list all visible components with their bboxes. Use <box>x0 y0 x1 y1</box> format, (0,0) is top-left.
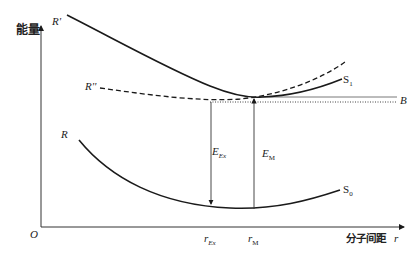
x-axis-symbol: r <box>394 232 399 244</box>
x-axis-label: 分子间距 <box>346 232 387 244</box>
curve-r-s0 <box>79 140 340 208</box>
label-s1: S1 <box>343 73 353 88</box>
label-r-double-prime: R'' <box>84 80 97 92</box>
label-s0: S0 <box>343 183 353 198</box>
origin-label: O <box>30 228 38 240</box>
curve-r-double-prime <box>100 62 345 100</box>
label-b: B <box>400 94 407 106</box>
y-axis-label: 能量 <box>16 22 40 37</box>
label-r: R <box>60 128 68 140</box>
potential-energy-diagram: 能量 O 分子间距 r R' R'' R B S1 S0 EEx EM rEx … <box>0 0 419 265</box>
label-r-prime: R' <box>51 15 62 27</box>
label-r-m: rM <box>248 232 259 247</box>
label-e-m: EM <box>261 147 276 162</box>
label-e-ex: EEx <box>211 145 227 160</box>
label-r-ex: rEx <box>204 232 217 247</box>
